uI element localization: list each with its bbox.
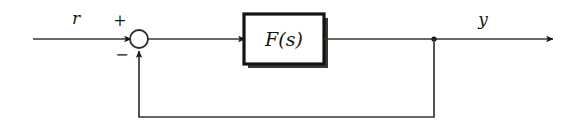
reference-input-label: r xyxy=(72,8,81,28)
minus-sign-label: − xyxy=(115,45,128,64)
block-diagram-canvas: r + − F(s) y xyxy=(0,0,570,131)
output-signal-label: y xyxy=(477,9,488,29)
block-diagram: r + − F(s) y xyxy=(0,0,570,131)
summing-junction-circle xyxy=(130,30,148,48)
transfer-function-block: F(s) xyxy=(244,14,328,68)
block-label: F(s) xyxy=(264,28,303,50)
plus-sign-label: + xyxy=(113,11,126,30)
